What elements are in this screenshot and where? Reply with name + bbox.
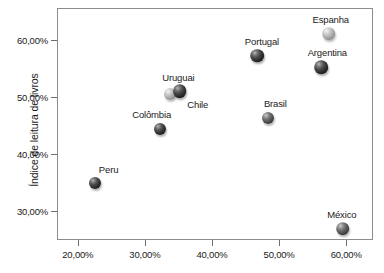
data-point-label-chile: Chile <box>187 99 208 110</box>
data-point-label-colombia: Colômbia <box>132 108 171 119</box>
x-tick-mark <box>279 240 280 246</box>
data-point-chile[interactable] <box>173 84 187 98</box>
data-point-mexico[interactable] <box>336 222 350 236</box>
data-point-brasil[interactable] <box>262 112 274 124</box>
data-point-portugal[interactable] <box>250 49 264 63</box>
x-tick-label: 20,00% <box>62 249 93 260</box>
x-tick-mark <box>212 240 213 246</box>
scatter-chart: Índice de leitura de livros 30,00%40,00%… <box>0 0 384 273</box>
plot-area <box>57 8 373 240</box>
data-point-argentina[interactable] <box>315 60 329 74</box>
x-tick-label: 40,00% <box>196 249 227 260</box>
data-point-label-portugal: Portugal <box>245 35 279 46</box>
y-tick-label: 40,00% <box>17 149 48 160</box>
data-point-espanha[interactable] <box>322 27 336 41</box>
y-axis-title: Índice de leitura de livros <box>28 35 40 225</box>
y-tick-label: 50,00% <box>17 91 48 102</box>
data-point-label-peru: Peru <box>99 163 118 174</box>
data-point-colombia[interactable] <box>154 123 166 135</box>
x-tick-label: 50,00% <box>264 249 295 260</box>
x-tick-mark <box>145 240 146 246</box>
y-tick-label: 30,00% <box>17 206 48 217</box>
data-point-label-uruguai: Uruguai <box>162 72 194 83</box>
y-tick-label: 60,00% <box>17 34 48 45</box>
data-point-label-argentina: Argentina <box>308 47 347 58</box>
data-point-peru[interactable] <box>89 177 101 189</box>
data-point-label-brasil: Brasil <box>264 97 287 108</box>
x-tick-label: 30,00% <box>129 249 160 260</box>
data-point-label-espanha: Espanha <box>312 13 348 24</box>
data-point-label-mexico: México <box>327 208 356 219</box>
x-tick-label: 60,00% <box>331 249 362 260</box>
x-tick-mark <box>78 240 79 246</box>
x-tick-mark <box>346 240 347 246</box>
